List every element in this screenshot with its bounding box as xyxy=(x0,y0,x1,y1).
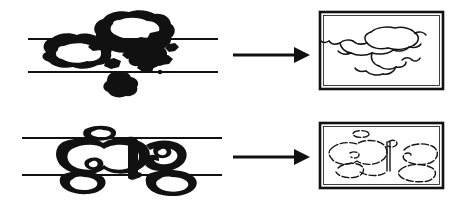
thick-printed-glyph xyxy=(56,126,197,196)
transform-arrow xyxy=(233,149,310,165)
output-frame xyxy=(320,123,443,188)
output-frame-inner xyxy=(324,127,440,185)
contour-outline-glyph-box xyxy=(320,123,443,188)
figure-row-bottom xyxy=(0,104,468,208)
transformation-figure xyxy=(0,0,468,208)
arrow-head xyxy=(294,47,310,63)
row-top-canvas xyxy=(0,0,468,104)
skeletonized-glyph-box xyxy=(320,12,443,89)
transform-arrow xyxy=(233,47,310,63)
arrow-head xyxy=(294,149,310,165)
figure-row-top xyxy=(0,0,468,104)
contour-strokes xyxy=(329,131,437,182)
row-bottom-canvas xyxy=(0,104,468,208)
skeleton-strokes xyxy=(321,27,426,75)
thick-handwritten-glyph xyxy=(27,10,179,97)
